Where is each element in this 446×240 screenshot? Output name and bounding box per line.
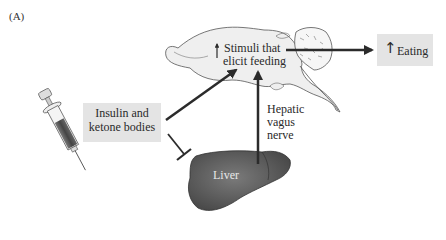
injection-line1: Insulin and <box>83 106 161 120</box>
stimuli-label: Stimuli that elicit feeding <box>224 42 286 68</box>
edge-injection-to-brain <box>166 70 236 120</box>
increase-arrow-eating: ↑ <box>384 41 397 55</box>
liver-label: Liver <box>213 168 239 183</box>
liver-icon <box>188 151 290 211</box>
inhibit-bar <box>177 149 191 160</box>
eating-node: ↑ Eating <box>377 34 433 66</box>
brain-icon <box>166 27 340 112</box>
nerve-line3: nerve <box>267 129 304 142</box>
injection-node: Insulin and ketone bodies <box>83 103 161 142</box>
stimuli-line2: elicit feeding <box>223 55 286 68</box>
edge-injection-inhibits-liver <box>168 134 184 154</box>
eating-label: Eating <box>397 44 428 58</box>
nerve-label: Hepatic vagus nerve <box>267 103 304 142</box>
injection-line2: ketone bodies <box>83 120 161 134</box>
